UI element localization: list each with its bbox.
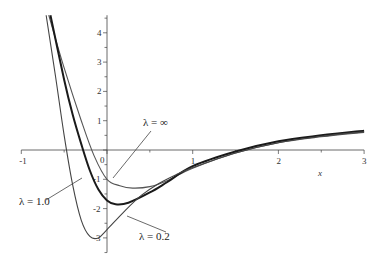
x-axis-label: x	[317, 168, 322, 178]
axes: -101234321-1-2-3x	[19, 15, 367, 252]
x-tick-label: 3	[362, 156, 367, 166]
y-tick-label: -2	[93, 204, 101, 214]
y-tick-label: 3	[97, 57, 102, 67]
y-tick-label: 2	[97, 86, 102, 96]
x-tick-label: 0	[100, 155, 105, 165]
x-tick-label: 2	[276, 156, 281, 166]
annotation-leader	[46, 178, 82, 200]
annotation-label: λ = ∞	[143, 116, 168, 128]
annotation-label: λ = 1.0	[19, 195, 50, 207]
annotation-label: λ = 0.2	[139, 230, 170, 242]
y-tick-label: 1	[97, 116, 102, 126]
y-tick-label: 4	[97, 28, 102, 38]
chart-container: -101234321-1-2-3x λ = ∞λ = 1.0λ = 0.2	[0, 0, 382, 263]
annotation-leader	[113, 131, 151, 178]
plot-area: -101234321-1-2-3x λ = ∞λ = 1.0λ = 0.2	[0, 0, 382, 263]
x-tick-label: -1	[19, 156, 27, 166]
